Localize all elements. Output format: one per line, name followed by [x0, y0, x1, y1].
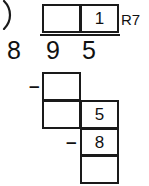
- quotient-ones-box[interactable]: 1: [80, 4, 119, 33]
- difference-tens-box[interactable]: [42, 100, 81, 129]
- remainder-label: R7: [121, 12, 140, 27]
- final-remainder-box[interactable]: [80, 155, 119, 184]
- long-division-worksheet: 1 R7 8 9 5 – – 5 8: [0, 0, 149, 186]
- minus-sign-first: –: [29, 76, 40, 95]
- divisor-digit: 8: [7, 38, 21, 63]
- second-subtrahend-box[interactable]: 8: [80, 128, 119, 156]
- subtrahend-tens-box[interactable]: [42, 72, 81, 101]
- brought-down-digit-box[interactable]: 5: [80, 100, 119, 129]
- quotient-tens-box[interactable]: [42, 4, 81, 33]
- dividend-digit-ones: 5: [82, 38, 96, 63]
- minus-sign-second: –: [66, 132, 77, 151]
- dividend-digit-tens: 9: [46, 38, 60, 63]
- division-bracket-icon: [0, 0, 16, 30]
